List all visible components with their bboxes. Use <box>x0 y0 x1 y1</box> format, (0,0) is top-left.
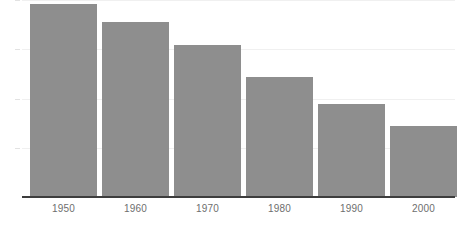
y-axis-tick <box>15 99 20 100</box>
x-axis-label: 1960 <box>102 203 169 214</box>
y-axis-tick <box>15 148 20 149</box>
bar[interactable] <box>30 4 97 197</box>
bar[interactable] <box>174 45 241 197</box>
bar[interactable] <box>390 126 457 197</box>
y-axis-tick <box>15 0 20 1</box>
y-axis-tick <box>15 49 20 50</box>
bars-group <box>22 0 455 197</box>
x-axis-label: 2000 <box>390 203 457 214</box>
plot-area <box>22 0 455 197</box>
x-axis-line <box>22 196 455 198</box>
x-axis-label: 1970 <box>174 203 241 214</box>
bar-chart: 195019601970198019902000 <box>0 0 471 230</box>
x-axis-label: 1950 <box>30 203 97 214</box>
x-axis-label: 1980 <box>246 203 313 214</box>
x-axis-labels-group: 195019601970198019902000 <box>22 203 455 221</box>
bar[interactable] <box>318 104 385 197</box>
bar[interactable] <box>246 77 313 197</box>
bar[interactable] <box>102 22 169 197</box>
x-axis-label: 1990 <box>318 203 385 214</box>
